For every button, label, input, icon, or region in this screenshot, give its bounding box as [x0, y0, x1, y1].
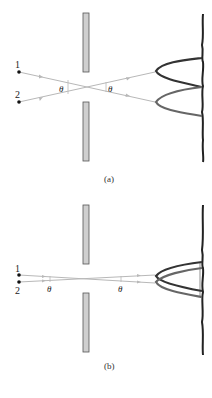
- arrow-icon: [42, 275, 46, 278]
- screen-b: [202, 205, 203, 355]
- arrow-icon: [137, 281, 141, 284]
- source-label-1-a: 1: [15, 59, 20, 70]
- panel-b: θ θ 1 2 (b): [15, 205, 203, 371]
- barrier-bottom-a: [83, 102, 89, 161]
- arrow-icon: [137, 274, 141, 277]
- source-2-a: [17, 100, 21, 104]
- panel-a: θ θ 1 2 (a): [15, 13, 203, 184]
- intensity-curve-upper-a: [156, 58, 202, 87]
- caption-b: (b): [104, 361, 115, 371]
- intensity-curve-lower-a: [156, 87, 202, 116]
- screen-a: [202, 14, 203, 162]
- barrier-top-a: [83, 13, 89, 72]
- arrow-icon: [39, 75, 43, 79]
- source-label-2-a: 2: [15, 89, 20, 100]
- theta-left-b: θ: [47, 284, 52, 294]
- theta-right-b: θ: [118, 284, 123, 294]
- diffraction-figure: θ θ 1 2 (a) θ θ 1 2 (: [0, 0, 212, 398]
- source-label-2-b: 2: [15, 285, 20, 296]
- barrier-top-b: [83, 205, 89, 264]
- theta-right-a: θ: [108, 84, 113, 94]
- source-1-a: [17, 70, 21, 74]
- source-label-1-b: 1: [15, 263, 20, 274]
- source-2-b: [17, 280, 21, 284]
- caption-a: (a): [104, 174, 114, 184]
- arrow-icon: [39, 97, 43, 101]
- intensity-curve-lower-b: [156, 268, 202, 297]
- theta-left-a: θ: [59, 84, 64, 94]
- barrier-bottom-b: [83, 293, 89, 352]
